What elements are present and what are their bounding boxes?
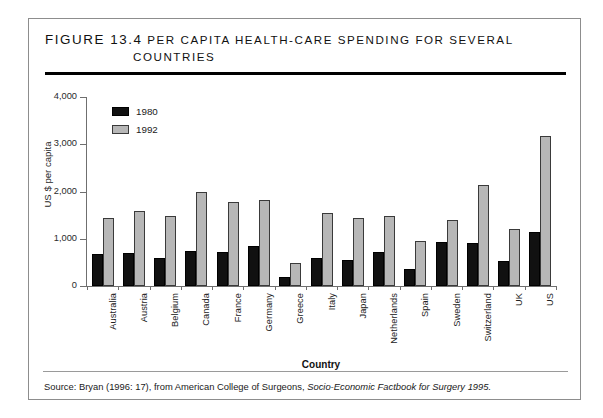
source-title-italic: Socio-Economic Factbook for Surgery 1995… — [307, 381, 491, 392]
x-axis-tick — [368, 286, 369, 290]
bar-australia-1980 — [92, 254, 103, 286]
source-note: Source: Bryan (1996: 17), from American … — [44, 380, 569, 393]
source-text: Source: Bryan (1996: 17), from American … — [44, 381, 305, 392]
x-axis-label-text: Germany — [264, 293, 274, 331]
bar-group — [498, 97, 520, 286]
bar-spain-1992 — [415, 241, 426, 286]
y-axis-tick — [80, 144, 87, 145]
bar-greece-1992 — [290, 263, 301, 286]
x-axis-label-uk: UK — [502, 293, 516, 355]
y-axis-tick-label: 0 — [29, 280, 77, 290]
x-axis-label-australia: Australia — [96, 293, 110, 355]
x-axis-label-text: Austria — [139, 293, 149, 322]
x-axis-label-belgium: Belgium — [158, 293, 172, 355]
y-axis-tick-label: 1,000 — [29, 233, 77, 243]
bar-japan-1992 — [353, 218, 364, 286]
y-axis-title: US $ per capita — [42, 115, 53, 235]
x-axis-label-canada: Canada — [189, 293, 203, 355]
bar-group — [248, 97, 270, 286]
bar-spain-1980 — [404, 269, 415, 286]
x-axis-tick — [212, 286, 213, 290]
x-axis-label-japan: Japan — [346, 293, 360, 355]
x-axis-label-spain: Spain — [408, 293, 422, 355]
x-axis-label-switzerland: Switzerland — [471, 293, 485, 355]
y-axis-tick-label: 3,000 — [29, 138, 77, 148]
x-axis-label-text: Belgium — [170, 293, 180, 327]
y-axis-tick — [80, 192, 87, 193]
y-axis-tick-label: 2,000 — [29, 186, 77, 196]
x-axis-tick — [556, 286, 557, 290]
bar-canada-1992 — [196, 192, 207, 286]
figure-frame: Figure 13.4 Per Capita Health-Care Spend… — [28, 18, 581, 400]
x-axis-label-germany: Germany — [252, 293, 266, 355]
bar-austria-1992 — [134, 211, 145, 286]
x-axis-label-text: UK — [514, 293, 524, 306]
x-axis-tick — [150, 286, 151, 290]
x-axis-label-text: Italy — [327, 293, 337, 310]
bar-germany-1992 — [259, 200, 270, 286]
x-axis-label-greece: Greece — [283, 293, 297, 355]
x-axis-title: Country — [86, 359, 556, 370]
bar-sweden-1992 — [447, 220, 458, 286]
x-axis-label-text: Canada — [201, 293, 211, 326]
bar-canada-1980 — [185, 251, 196, 286]
bar-australia-1992 — [103, 218, 114, 287]
x-axis-label-sweden: Sweden — [440, 293, 454, 355]
y-axis-tick — [80, 286, 87, 287]
bar-group — [279, 97, 301, 286]
x-axis-tick — [431, 286, 432, 290]
bar-france-1992 — [228, 202, 239, 286]
bar-group — [185, 97, 207, 286]
bar-group — [123, 97, 145, 286]
bar-greece-1980 — [279, 277, 290, 286]
bar-group — [217, 97, 239, 286]
x-axis-label-text: Spain — [420, 293, 430, 317]
bar-groups — [87, 97, 556, 286]
x-axis-label-france: France — [221, 293, 235, 355]
x-axis-label-netherlands: Netherlands — [377, 293, 391, 355]
x-axis-line — [86, 286, 556, 287]
bar-uk-1980 — [498, 261, 509, 286]
x-axis-tick — [525, 286, 526, 290]
source-divider — [43, 371, 568, 372]
bar-group — [373, 97, 395, 286]
x-axis-tick — [181, 286, 182, 290]
x-axis-label-italy: Italy — [315, 293, 329, 355]
bar-group — [467, 97, 489, 286]
bar-sweden-1980 — [436, 242, 447, 286]
bar-group — [529, 97, 551, 286]
x-axis-label-text: France — [233, 293, 243, 322]
x-axis-label-us: US — [533, 293, 547, 355]
x-axis-label-text: Netherlands — [389, 293, 399, 344]
x-axis-tick — [275, 286, 276, 290]
x-axis-tick — [306, 286, 307, 290]
bar-germany-1980 — [248, 246, 259, 286]
bar-austria-1980 — [123, 253, 134, 286]
bar-switzerland-1992 — [478, 185, 489, 286]
bar-france-1980 — [217, 252, 228, 286]
y-axis-tick-label: 4,000 — [29, 91, 77, 101]
bar-japan-1980 — [342, 260, 353, 286]
bar-netherlands-1992 — [384, 216, 395, 286]
bar-group — [342, 97, 364, 286]
x-axis-label-text: Japan — [358, 293, 368, 319]
bar-netherlands-1980 — [373, 252, 384, 286]
bar-italy-1980 — [311, 258, 322, 286]
bar-switzerland-1980 — [467, 243, 478, 286]
x-axis-tick — [87, 286, 88, 290]
x-axis-label-austria: Austria — [127, 293, 141, 355]
x-axis-label-text: Sweden — [452, 293, 462, 327]
x-axis-label-text: Greece — [295, 293, 305, 324]
x-axis-tick — [118, 286, 119, 290]
bar-group — [311, 97, 333, 286]
y-axis-tick — [80, 97, 87, 98]
bar-group — [404, 97, 426, 286]
x-axis-tick — [400, 286, 401, 290]
bar-us-1980 — [529, 232, 540, 286]
x-axis-label-text: Australia — [108, 293, 118, 330]
bar-uk-1992 — [509, 229, 520, 286]
y-axis-tick — [80, 239, 87, 240]
x-axis-tick — [337, 286, 338, 290]
bar-group — [92, 97, 114, 286]
bar-italy-1992 — [322, 213, 333, 286]
